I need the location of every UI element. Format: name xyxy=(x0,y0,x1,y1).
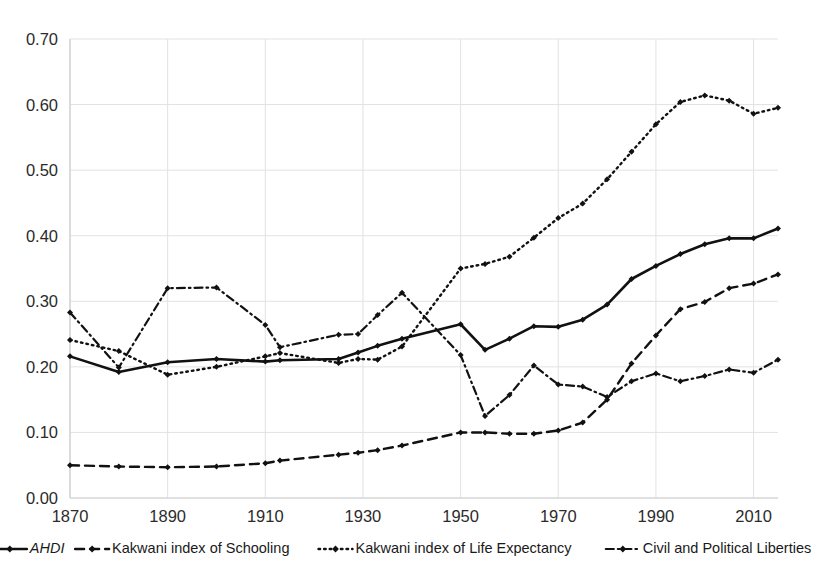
data-point-marker xyxy=(399,336,405,342)
data-series xyxy=(67,92,781,470)
data-point-marker xyxy=(116,464,122,470)
data-point-marker xyxy=(277,357,283,363)
data-point-marker xyxy=(555,215,561,221)
data-point-marker xyxy=(336,360,342,366)
data-point-marker xyxy=(67,462,73,468)
data-point-marker xyxy=(702,373,708,379)
data-point-marker xyxy=(506,431,512,437)
data-point-marker xyxy=(277,458,283,464)
data-point-marker xyxy=(751,281,757,287)
data-point-marker xyxy=(262,359,268,365)
data-point-marker xyxy=(355,450,361,456)
data-point-marker xyxy=(116,348,122,354)
legend-marker-icon xyxy=(6,546,13,553)
legend-marker-icon xyxy=(89,546,96,553)
legend-item-label: Kakwani index of Schooling xyxy=(112,540,289,556)
y-axis-tick-label: 0.20 xyxy=(26,358,58,376)
data-point-marker xyxy=(336,452,342,458)
y-axis-tick-label: 0.00 xyxy=(26,489,58,507)
legend-marker-icon xyxy=(619,546,626,553)
line-chart: 0.000.100.200.300.400.500.600.70 1870189… xyxy=(0,0,819,575)
data-point-marker xyxy=(726,366,732,372)
data-point-marker xyxy=(458,429,464,435)
data-point-marker xyxy=(355,349,361,355)
series-line xyxy=(70,274,778,467)
legend-marker-icon xyxy=(332,546,339,553)
x-axis-tick-label: 1870 xyxy=(52,507,89,525)
data-point-marker xyxy=(277,350,283,356)
x-axis-tick-label: 1990 xyxy=(638,507,675,525)
data-point-marker xyxy=(213,356,219,362)
data-point-marker xyxy=(355,356,361,362)
y-axis-tick-label: 0.70 xyxy=(26,30,58,48)
data-point-marker xyxy=(775,271,781,277)
data-point-marker xyxy=(262,322,268,328)
data-point-marker xyxy=(375,447,381,453)
axes xyxy=(70,39,778,498)
x-axis-tick-labels: 18701890191019301950197019902010 xyxy=(52,507,772,525)
data-point-marker xyxy=(702,92,708,98)
gridlines xyxy=(70,39,778,498)
x-axis-tick-label: 1930 xyxy=(345,507,382,525)
x-axis-tick-label: 2010 xyxy=(735,507,772,525)
y-axis-tick-labels: 0.000.100.200.300.400.500.600.70 xyxy=(26,30,58,507)
data-point-marker xyxy=(629,378,635,384)
data-point-marker xyxy=(726,285,732,291)
data-point-marker xyxy=(165,464,171,470)
data-point-marker xyxy=(458,352,464,358)
series-0 xyxy=(67,226,781,376)
legend-item-0[interactable]: AHDI xyxy=(0,540,64,556)
data-point-marker xyxy=(213,464,219,470)
data-point-marker xyxy=(375,343,381,349)
data-point-marker xyxy=(67,353,73,359)
chart-container: 0.000.100.200.300.400.500.600.70 1870189… xyxy=(0,0,819,575)
x-axis-tick-label: 1910 xyxy=(247,507,284,525)
chart-legend: AHDIKakwani index of SchoolingKakwani in… xyxy=(0,540,811,556)
data-point-marker xyxy=(531,431,537,437)
data-point-marker xyxy=(262,460,268,466)
legend-item-1[interactable]: Kakwani index of Schooling xyxy=(75,540,289,556)
y-axis-tick-label: 0.60 xyxy=(26,96,58,114)
data-point-marker xyxy=(482,429,488,435)
series-2 xyxy=(67,92,781,377)
data-point-marker xyxy=(482,261,488,267)
legend-item-2[interactable]: Kakwani index of Life Expectancy xyxy=(319,540,573,556)
data-point-marker xyxy=(555,324,561,330)
data-point-marker xyxy=(165,359,171,365)
series-line xyxy=(70,229,778,373)
y-axis-tick-label: 0.40 xyxy=(26,227,58,245)
data-point-marker xyxy=(506,254,512,260)
data-point-marker xyxy=(726,235,732,241)
data-point-marker xyxy=(213,364,219,370)
legend-item-label: Kakwani index of Life Expectancy xyxy=(356,540,573,556)
data-point-marker xyxy=(399,443,405,449)
x-axis-tick-label: 1890 xyxy=(149,507,186,525)
y-axis-tick-label: 0.50 xyxy=(26,161,58,179)
y-axis-tick-label: 0.10 xyxy=(26,423,58,441)
x-axis-tick-label: 1970 xyxy=(540,507,577,525)
data-point-marker xyxy=(653,370,659,376)
legend-item-3[interactable]: Civil and Political Liberties xyxy=(606,540,811,556)
data-point-marker xyxy=(67,337,73,343)
data-point-marker xyxy=(262,353,268,359)
data-point-marker xyxy=(677,378,683,384)
y-axis-tick-label: 0.30 xyxy=(26,292,58,310)
series-3 xyxy=(67,285,781,420)
legend-item-label: Civil and Political Liberties xyxy=(643,540,811,556)
data-point-marker xyxy=(775,105,781,111)
series-line xyxy=(70,288,778,417)
data-point-marker xyxy=(336,332,342,338)
x-axis-tick-label: 1950 xyxy=(442,507,479,525)
legend-item-label: AHDI xyxy=(29,540,65,556)
data-point-marker xyxy=(458,266,464,272)
